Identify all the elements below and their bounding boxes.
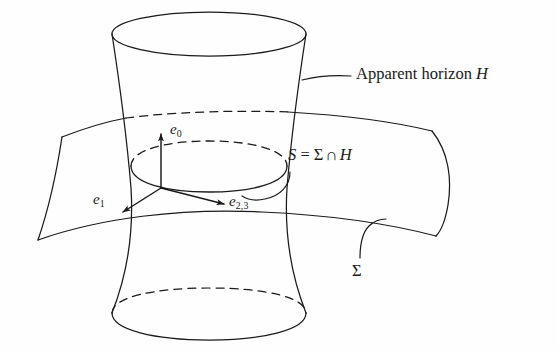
label-e23: e2,3 [229, 194, 249, 211]
hyperboloid-apparent-horizon [112, 12, 306, 340]
leader-lines [242, 76, 386, 258]
e1-base: e [93, 191, 100, 207]
intersection-rhs: H [340, 145, 352, 164]
label-e1: e1 [93, 192, 105, 209]
sigma-top-edge-hidden [126, 111, 288, 118]
e0-base: e [170, 121, 177, 137]
intersection-circle-s [131, 141, 287, 192]
figure-canvas: Apparent horizon H S = Σ ∩ H Σ e0 e1 e2,… [0, 0, 557, 351]
sigma-right-edge [432, 131, 450, 236]
apparent-horizon-symbol: H [476, 64, 488, 83]
sigma-bottom-edge [38, 211, 436, 240]
e1-subscript: 1 [100, 198, 105, 209]
spatial-slice-sigma [38, 111, 450, 240]
sigma-top-edge-left [62, 118, 126, 137]
horizon-bottom-rim-front [112, 313, 306, 340]
intersection-circle-front [131, 166, 287, 192]
intersection-cap-icon: ∩ [326, 145, 338, 164]
diagram-svg [0, 0, 557, 351]
e23-base: e [229, 193, 236, 209]
intersection-equals: = [300, 145, 310, 164]
intersection-lhs: S [288, 145, 297, 164]
intersection-circle-back [131, 141, 287, 166]
slice-sigma-symbol: Σ [352, 261, 362, 280]
sigma-left-edge [38, 137, 62, 240]
label-slice-sigma: Σ [352, 263, 362, 280]
sigma-top-edge-right [288, 112, 432, 131]
horizon-profile-left [112, 34, 132, 313]
horizon-profile-right [286, 34, 306, 313]
e23-subscript: 2,3 [236, 200, 249, 211]
intersection-sigma: Σ [314, 145, 324, 164]
label-intersection-equation: S = Σ ∩ H [288, 147, 352, 164]
e1-arrow [123, 188, 161, 212]
label-e0: e0 [170, 122, 182, 139]
label-apparent-horizon: Apparent horizon H [356, 66, 488, 83]
e23-arrow [161, 188, 224, 204]
leader-apparent-horizon [302, 76, 351, 80]
orthonormal-tetrad [123, 134, 224, 212]
horizon-top-rim [112, 12, 306, 56]
e0-subscript: 0 [177, 128, 182, 139]
horizon-bottom-rim-back [112, 288, 306, 313]
apparent-horizon-prefix: Apparent horizon [356, 64, 476, 83]
